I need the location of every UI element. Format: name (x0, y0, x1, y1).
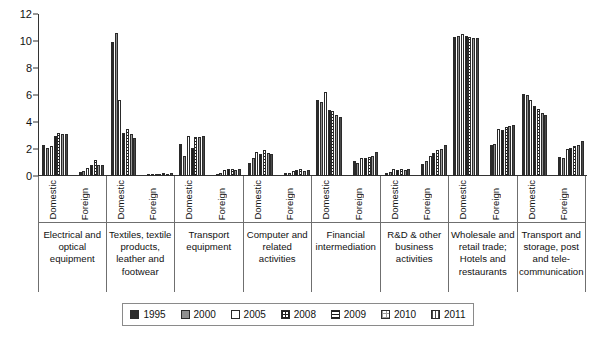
bar-1995 (316, 100, 319, 176)
subgroup-label-domestic: Domestic (321, 180, 331, 220)
bar-2010 (61, 134, 64, 176)
bar-2011 (101, 165, 104, 176)
bar-2011 (270, 154, 273, 176)
legend-item-2011[interactable]: 2011 (431, 309, 466, 320)
bar-group (519, 14, 588, 176)
bar-subgroup-domestic (176, 14, 210, 176)
bar-subgroup-domestic (382, 14, 416, 176)
legend-item-2008[interactable]: 2008 (281, 309, 316, 320)
category-cell: DomesticForeignComputer and related acti… (244, 176, 313, 292)
legend-item-1995[interactable]: 1995 (130, 309, 165, 320)
category-cell: DomesticForeignTransport equipment (175, 176, 244, 292)
bar-2008 (227, 169, 230, 176)
bar-subgroup-foreign (73, 14, 107, 176)
bar-subgroup-foreign (210, 14, 244, 176)
bar-2008 (191, 148, 194, 176)
category-name: Financial intermediation (312, 223, 380, 292)
y-tick-mark-6 (33, 95, 38, 96)
bar-2009 (194, 137, 197, 176)
bar-2000 (183, 156, 186, 176)
legend-label: 2000 (194, 309, 216, 320)
bar-2000 (526, 95, 529, 176)
bar-2005 (360, 158, 363, 176)
bar-1995 (558, 157, 561, 176)
bar-2010 (97, 165, 100, 176)
subgroup-label-foreign: Foreign (422, 188, 432, 220)
subgroup-label-foreign: Foreign (354, 188, 364, 220)
legend-label: 1995 (143, 309, 165, 320)
bar-1995 (111, 42, 114, 176)
bar-2011 (544, 115, 547, 176)
bar-subgroup-foreign (279, 14, 313, 176)
chart-legend: 1995200020052008200920102011 (122, 303, 474, 326)
category-name: Transport and storage, post and tele-com… (518, 223, 586, 292)
bar-1995 (248, 163, 251, 177)
legend-item-2009[interactable]: 2009 (331, 309, 366, 320)
bar-2009 (505, 127, 508, 176)
bar-2000 (46, 148, 49, 176)
legend-item-2010[interactable]: 2010 (381, 309, 416, 320)
bar-1995 (42, 145, 45, 176)
y-tick-label-0: 0 (26, 171, 32, 182)
bar-2011 (407, 169, 410, 176)
bar-subgroup-foreign (553, 14, 587, 176)
subgroup-label-foreign: Foreign (217, 188, 227, 220)
bar-2010 (335, 115, 338, 176)
bar-2009 (400, 169, 403, 176)
bar-2010 (577, 145, 580, 176)
bar-2010 (440, 149, 443, 176)
bar-subgroup-domestic (108, 14, 142, 176)
bar-group (450, 14, 519, 176)
bar-2010 (130, 134, 133, 176)
bar-2009 (331, 111, 334, 176)
subgroup-label-foreign: Foreign (80, 188, 90, 220)
bar-2005 (429, 156, 432, 176)
category-name: Wholesale and retail trade; Hotels and r… (449, 223, 517, 292)
bar-subgroup-domestic (313, 14, 347, 176)
y-axis-tick-labels: 024681012 (6, 10, 32, 175)
y-tick-label-2: 2 (26, 144, 32, 155)
bar-2009 (573, 146, 576, 176)
y-tick-mark-12 (33, 14, 38, 15)
category-name: Transport equipment (175, 223, 243, 292)
category-cell: DomesticForeignElectrical and optical eq… (38, 176, 107, 292)
y-tick-label-4: 4 (26, 117, 32, 128)
category-name: R&D & other business activities (381, 223, 449, 292)
bar-2005 (324, 92, 327, 176)
bar-2005 (86, 168, 89, 176)
bar-1995 (522, 94, 525, 176)
bar-2005 (50, 146, 53, 176)
subgroup-label-domestic: Domestic (184, 180, 194, 220)
bar-1995 (179, 144, 182, 176)
legend-label: 2009 (344, 309, 366, 320)
bar-2000 (115, 33, 118, 176)
bar-2008 (533, 106, 536, 176)
subgroup-label-foreign: Foreign (148, 188, 158, 220)
bar-group (313, 14, 382, 176)
category-name: Electrical and optical equipment (39, 223, 106, 292)
subgroup-label-domestic: Domestic (527, 180, 537, 220)
bar-2008 (569, 148, 572, 176)
subgroup-label-row: DomesticForeign (381, 176, 449, 222)
bar-subgroup-domestic (39, 14, 73, 176)
bar-subgroup-domestic (450, 14, 484, 176)
bar-group (245, 14, 314, 176)
bar-2008 (465, 36, 468, 176)
bar-2000 (457, 36, 460, 176)
legend-item-2005[interactable]: 2005 (231, 309, 266, 320)
subgroup-label-domestic: Domestic (116, 180, 126, 220)
legend-item-2000[interactable]: 2000 (181, 309, 216, 320)
bar-2005 (497, 129, 500, 176)
bar-2009 (57, 133, 60, 176)
subgroup-label-row: DomesticForeign (312, 176, 380, 222)
bar-subgroup-domestic (245, 14, 279, 176)
bar-2011 (375, 152, 378, 176)
legend-swatch-icon-2011 (431, 310, 440, 319)
subgroup-label-foreign: Foreign (559, 188, 569, 220)
bar-2009 (299, 169, 302, 176)
subgroup-label-foreign: Foreign (491, 188, 501, 220)
legend-swatch-icon-2005 (231, 310, 240, 319)
legend-label: 2005 (244, 309, 266, 320)
y-tick-label-6: 6 (26, 90, 32, 101)
subgroup-label-row: DomesticForeign (518, 176, 586, 222)
